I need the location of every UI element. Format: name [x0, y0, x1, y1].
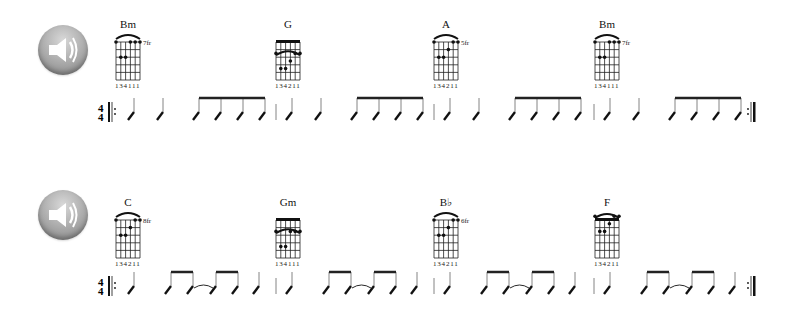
svg-text:4: 4 [98, 285, 104, 297]
rhythm-staff-2: 44 [0, 0, 796, 324]
